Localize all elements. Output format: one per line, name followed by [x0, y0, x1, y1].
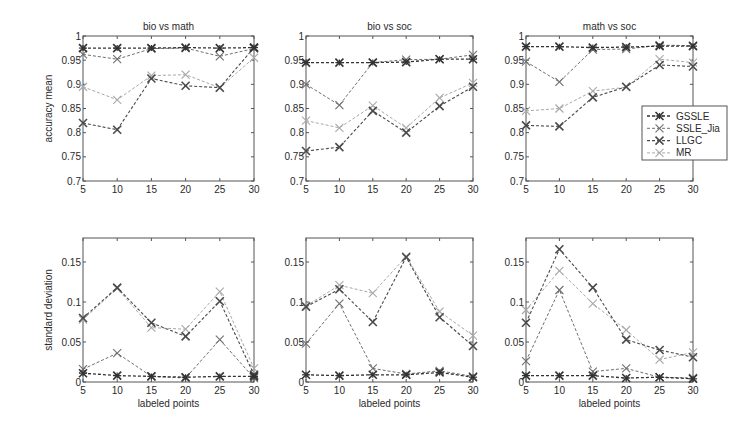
x-tick-label: 30: [248, 184, 260, 195]
y-axis-label: standard deviation: [43, 269, 54, 351]
y-tick-label: 0.05: [62, 337, 82, 348]
y-tick-label: 0.9: [67, 79, 81, 90]
legend: GSSLESSLE_JiaLLGCMR: [642, 106, 727, 160]
y-tick-label: 0.85: [505, 103, 525, 114]
x-tick-label: 30: [467, 385, 479, 396]
x-tick-label: 25: [214, 385, 226, 396]
chart-canvas: 0.70.750.80.850.90.95151015202530bio vs …: [0, 0, 751, 431]
x-tick-label: 5: [303, 184, 309, 195]
y-tick-label: 0.1: [67, 297, 81, 308]
x-tick-label: 5: [523, 385, 529, 396]
x-axis-label: labeled points: [138, 398, 200, 409]
y-tick-label: 0.75: [285, 151, 305, 162]
y-tick-label: 0.75: [505, 151, 525, 162]
axes-frame: [526, 238, 693, 382]
subplot-6: 00.050.10.1551015202530labeled points: [505, 238, 699, 409]
y-tick-label: 0.95: [62, 55, 82, 66]
x-tick-label: 20: [401, 385, 413, 396]
x-tick-label: 20: [621, 184, 633, 195]
subplot-title: math vs soc: [583, 21, 636, 32]
x-tick-label: 10: [334, 184, 346, 195]
y-tick-label: 0.05: [505, 337, 525, 348]
x-tick-label: 15: [367, 184, 379, 195]
x-tick-label: 25: [434, 385, 446, 396]
y-tick-label: 1: [518, 31, 524, 42]
x-tick-label: 30: [687, 385, 699, 396]
x-tick-label: 20: [180, 385, 192, 396]
y-tick-label: 0.75: [62, 151, 82, 162]
subplot-4: 00.050.10.1551015202530labeled pointssta…: [43, 238, 260, 409]
x-tick-label: 5: [303, 385, 309, 396]
x-tick-label: 10: [112, 184, 124, 195]
x-tick-label: 10: [334, 385, 346, 396]
x-tick-label: 30: [248, 385, 260, 396]
x-tick-label: 5: [523, 184, 529, 195]
subplot-3: 0.70.750.80.850.90.95151015202530math vs…: [505, 21, 727, 195]
y-tick-label: 0.85: [285, 103, 305, 114]
y-tick-label: 0.15: [505, 257, 525, 268]
x-tick-label: 25: [654, 385, 666, 396]
y-tick-label: 0.15: [285, 257, 305, 268]
x-tick-label: 15: [146, 385, 158, 396]
x-tick-label: 10: [112, 385, 124, 396]
y-tick-label: 0.95: [505, 55, 525, 66]
x-axis-label: labeled points: [359, 398, 421, 409]
axes-frame: [306, 36, 473, 181]
x-tick-label: 20: [621, 385, 633, 396]
x-tick-label: 20: [180, 184, 192, 195]
subplot-2: 0.70.750.80.850.90.95151015202530bio vs …: [285, 21, 479, 195]
subplot-5: 00.050.10.1551015202530labeled points: [285, 238, 479, 409]
y-tick-label: 1: [75, 31, 81, 42]
axes-frame: [306, 238, 473, 382]
y-axis-label: accuracy mean: [43, 75, 54, 143]
x-tick-label: 5: [80, 184, 86, 195]
y-tick-label: 0.15: [62, 257, 82, 268]
y-tick-label: 0.8: [290, 127, 304, 138]
x-tick-label: 25: [214, 184, 226, 195]
subplot-title: bio vs math: [143, 21, 194, 32]
subplot-1: 0.70.750.80.850.90.95151015202530bio vs …: [43, 21, 260, 195]
x-tick-label: 15: [367, 385, 379, 396]
x-tick-label: 10: [554, 385, 566, 396]
y-tick-label: 0.8: [67, 127, 81, 138]
svg-text:GSSLE: GSSLE: [676, 111, 710, 122]
x-tick-label: 10: [554, 184, 566, 195]
x-tick-label: 15: [587, 184, 599, 195]
y-tick-label: 0.85: [62, 103, 82, 114]
x-tick-label: 15: [146, 184, 158, 195]
svg-text:SSLE_Jia: SSLE_Jia: [676, 123, 720, 134]
subplot-title: bio vs soc: [367, 21, 411, 32]
x-tick-label: 25: [434, 184, 446, 195]
x-tick-label: 30: [687, 184, 699, 195]
x-tick-label: 25: [654, 184, 666, 195]
x-axis-label: labeled points: [579, 398, 641, 409]
y-tick-label: 0.95: [285, 55, 305, 66]
legend-entry-gssle: GSSLE: [647, 111, 710, 122]
svg-text:MR: MR: [676, 147, 692, 158]
axes-frame: [83, 238, 254, 382]
y-tick-label: 1: [298, 31, 304, 42]
x-tick-label: 5: [80, 385, 86, 396]
x-tick-label: 15: [587, 385, 599, 396]
y-tick-label: 0.9: [510, 79, 524, 90]
x-tick-label: 20: [401, 184, 413, 195]
y-tick-label: 0.05: [285, 337, 305, 348]
figure: 0.70.750.80.850.90.95151015202530bio vs …: [0, 0, 751, 431]
x-tick-label: 30: [467, 184, 479, 195]
svg-text:LLGC: LLGC: [676, 135, 702, 146]
